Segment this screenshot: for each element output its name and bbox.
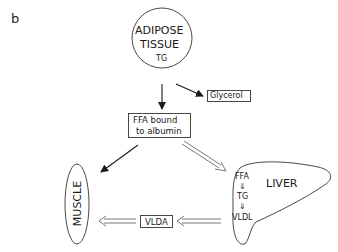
arrow-ffa-to-muscle <box>101 145 138 172</box>
double-arrow-vlda-to-muscle <box>99 216 136 226</box>
liver-step-vldl: VLDL <box>232 214 253 222</box>
glycerol-label: Glycerol <box>210 92 243 100</box>
liver-step-arrow-1: ⇓ <box>239 183 246 191</box>
adipose-label-line1: ADIPOSE <box>135 25 183 36</box>
adipose-tg-label: TG <box>156 55 167 63</box>
vlda-label: VLDA <box>145 218 168 227</box>
liver-step-tg: TG <box>237 193 248 201</box>
ffa-label-line1: FFA bound <box>133 116 177 125</box>
liver-step-ffa: FFA <box>235 173 249 181</box>
liver-label: LIVER <box>266 178 298 189</box>
arrow-adipose-to-glycerol <box>176 84 203 96</box>
double-arrow-liver-to-vlda <box>177 216 221 226</box>
muscle-label: MUSCLE <box>72 178 83 230</box>
liver-step-arrow-2: ⇓ <box>239 203 246 211</box>
double-arrow-ffa-to-liver <box>182 141 226 171</box>
panel-label: b <box>11 12 19 25</box>
ffa-label-line2: to albumin <box>136 127 182 136</box>
adipose-label-line2: TISSUE <box>140 39 179 50</box>
